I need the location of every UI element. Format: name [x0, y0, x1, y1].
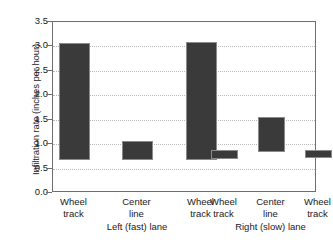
infiltration-rate-bar-chart: Infiltration rate (inches per hour) 0.00… — [0, 0, 333, 252]
y-tick-label: 3.5 — [8, 16, 48, 26]
group-label: Right (slow) lane — [211, 221, 331, 232]
x-tick-label: Wheeltrack — [44, 196, 104, 219]
y-tick-label: 2.5 — [8, 65, 48, 75]
y-tick-label: 0.5 — [8, 163, 48, 173]
y-tick-label: 3.0 — [8, 40, 48, 50]
x-tick-label-line1: Wheel — [44, 196, 104, 208]
y-tick-label: 1.0 — [8, 138, 48, 148]
x-tick-label: Centerline — [107, 196, 167, 219]
x-tick-label-line1: Wheel — [288, 196, 333, 208]
x-tick-label-line1: Center — [107, 196, 167, 208]
x-tick-label-line2: line — [107, 208, 167, 220]
plot-area — [52, 21, 316, 192]
y-tick-label: 0.0 — [8, 187, 48, 197]
group-label: Left (fast) lane — [77, 221, 197, 232]
bar — [59, 43, 90, 161]
bar — [258, 117, 285, 153]
x-tick-label-line2: track — [288, 208, 333, 220]
bar — [211, 150, 238, 159]
gridline — [53, 169, 315, 170]
y-tick-label: 2.0 — [8, 89, 48, 99]
x-tick-label-line2: track — [44, 208, 104, 220]
bar — [305, 150, 332, 158]
gridline — [53, 71, 315, 72]
bar — [186, 42, 217, 160]
gridline — [53, 46, 315, 47]
y-tick-label: 1.5 — [8, 114, 48, 124]
y-tick-mark — [46, 192, 52, 193]
gridline — [53, 95, 315, 96]
bar — [122, 141, 153, 161]
x-tick-label: Wheeltrack — [288, 196, 333, 219]
